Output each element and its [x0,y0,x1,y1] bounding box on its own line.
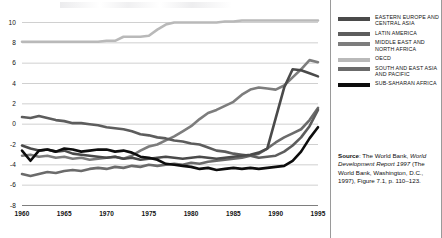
x-tick-label-1970: 1970 [92,210,122,217]
legend-item[interactable]: LATIN AMERICA [338,30,442,37]
legend-swatch-icon [338,67,370,71]
source-label: Source [338,152,359,159]
y-tick-label--8: -8 [0,202,16,209]
panel-divider [330,0,331,238]
y-tick-label--2: -2 [0,141,16,148]
x-tick-label-1975: 1975 [134,210,164,217]
legend-item-label: LATIN AMERICA [375,30,417,36]
source-lead: : The World Bank, [359,152,410,159]
legend-item[interactable]: MIDDLE EAST AND NORTH AFRICA [338,39,442,52]
x-tick-label-1985: 1985 [218,210,248,217]
figure-root: 1086420-2-4-6-8 196019651970197519801985… [0,0,442,238]
series-line-0 [22,69,318,159]
legend-item-label: OECD [375,55,391,61]
series-line-3 [22,20,318,41]
y-tick-label-2: 2 [0,100,16,107]
legend-item[interactable]: SOUTH AND EAST ASIA AND PACIFIC [338,65,442,78]
y-tick-label--4: -4 [0,161,16,168]
y-tick-label-6: 6 [0,59,16,66]
series-line-5 [22,127,318,170]
y-tick-label-4: 4 [0,80,16,87]
legend-swatch-icon [338,42,370,46]
source-year: 1997 [396,160,410,167]
x-tick-label-1995: 1995 [303,210,333,217]
legend-swatch-icon [338,83,370,87]
legend-swatch-icon [338,32,370,36]
x-tick-label-1990: 1990 [261,210,291,217]
x-tick-label-1980: 1980 [176,210,206,217]
y-tick-label-8: 8 [0,39,16,46]
y-tick-label-10: 10 [0,19,16,26]
chart-canvas [0,0,330,238]
legend-swatch-icon [338,58,370,62]
legend-item[interactable]: SUB-SAHARAN AFRICA [338,80,442,87]
y-tick-label-0: 0 [0,120,16,127]
legend-item-label: SUB-SAHARAN AFRICA [375,80,437,86]
legend-item[interactable]: OECD [338,55,442,62]
legend-swatch-icon [338,17,370,21]
chart-legend: EASTERN EUROPE AND CENTRAL ASIALATIN AME… [338,14,442,90]
source-note: Source: The World Bank, World Developmen… [338,152,438,186]
legend-item-label: MIDDLE EAST AND NORTH AFRICA [375,39,442,52]
x-tick-label-1960: 1960 [7,210,37,217]
legend-item-label: EASTERN EUROPE AND CENTRAL ASIA [375,14,442,27]
x-tick-label-1965: 1965 [49,210,79,217]
line-chart: 1086420-2-4-6-8 196019651970197519801985… [0,0,330,238]
legend-item-label: SOUTH AND EAST ASIA AND PACIFIC [375,65,442,78]
y-tick-label--6: -6 [0,181,16,188]
series-line-4 [22,108,318,176]
legend-item[interactable]: EASTERN EUROPE AND CENTRAL ASIA [338,14,442,27]
